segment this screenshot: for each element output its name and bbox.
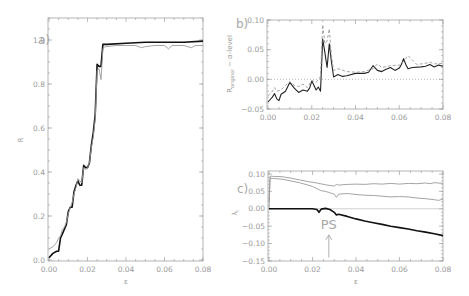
x-tick-label: 0.00	[261, 265, 278, 274]
axes-frame	[48, 18, 203, 261]
y-tick-label: 0.6	[33, 124, 45, 133]
y-tick-label: 0.10	[247, 16, 264, 25]
x-tick-label: 0.02	[79, 265, 96, 274]
x-axis-label: ε	[354, 278, 358, 286]
y-axis-label: Roriginal − α-level	[226, 35, 236, 93]
x-tick-label: 0.00	[260, 113, 277, 122]
y-axis-label: R	[17, 137, 25, 142]
x-tick-label: 0.00	[41, 265, 58, 274]
x-tick-label: 0.04	[118, 265, 135, 274]
data-series-line	[49, 46, 203, 250]
panel-label: c)	[237, 182, 248, 196]
y-tick-label: −0.05	[242, 222, 265, 231]
x-axis-label: ε	[124, 278, 128, 286]
y-tick-label: 0.8	[33, 80, 45, 89]
x-tick-label: 0.08	[195, 265, 212, 274]
data-series-line	[269, 208, 443, 235]
y-tick-label: 0.05	[248, 187, 265, 196]
x-tick-label: 0.04	[347, 113, 364, 122]
x-tick-label: 0.02	[303, 113, 320, 122]
panel-c-plot: 0.000.020.040.060.08−0.15−0.10−0.050.000…	[231, 170, 452, 286]
panel-a-plot: 0.000.020.040.060.080.00.20.40.60.81.0a)…	[17, 18, 212, 286]
y-tick-label: −0.10	[242, 239, 265, 248]
x-tick-label: 0.06	[391, 265, 408, 274]
y-tick-label: 0.00	[247, 75, 264, 84]
data-series-line	[269, 178, 443, 209]
y-tick-label: 0.00	[248, 204, 265, 213]
x-tick-label: 0.02	[304, 265, 321, 274]
y-tick-label: −0.05	[241, 105, 264, 114]
panel-label: b)	[236, 17, 248, 31]
y-tick-label: 0.2	[33, 212, 45, 221]
y-tick-label: 0.05	[247, 45, 264, 54]
data-series-line	[268, 39, 443, 102]
figure: 0.000.020.040.060.080.00.20.40.60.81.0a)…	[0, 0, 469, 296]
annotation-text: PS	[321, 217, 337, 232]
x-tick-label: 0.06	[156, 265, 173, 274]
y-axis-label: λi	[231, 210, 240, 216]
y-tick-label: 0.10	[248, 170, 265, 179]
x-tick-label: 0.08	[435, 113, 452, 122]
x-tick-label: 0.06	[391, 113, 408, 122]
y-tick-label: 0.4	[33, 168, 45, 177]
data-series-line	[268, 25, 443, 96]
y-tick-label: 0.0	[33, 256, 45, 265]
panel-b-plot: 0.000.020.040.060.08−0.050.000.050.10b)R…	[226, 16, 452, 122]
x-tick-label: 0.08	[435, 265, 452, 274]
panel-label: a)	[38, 33, 50, 47]
x-tick-label: 0.04	[348, 265, 365, 274]
data-series-line	[49, 41, 203, 258]
y-tick-label: −0.15	[242, 257, 265, 266]
